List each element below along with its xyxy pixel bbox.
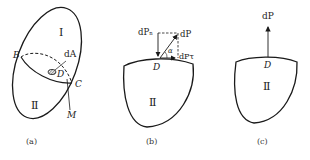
point-D-label: D [56, 69, 64, 79]
caption-a: (a) [26, 137, 37, 146]
body-outline [0, 0, 95, 128]
section-front-edge [21, 57, 72, 83]
region-II-label: Ⅱ [263, 80, 270, 93]
plane-M-label: M [66, 110, 77, 120]
caption-b: (b) [146, 137, 157, 146]
dP-label: dP [262, 11, 274, 21]
caption-c: (c) [257, 137, 268, 146]
point-D-label: D [152, 62, 160, 72]
point-D-label: D [263, 60, 271, 70]
point-B-label: B [12, 50, 20, 60]
dPn-label: dPₙ [138, 27, 153, 37]
dA-label: dA [64, 49, 77, 59]
region-I-label: Ⅰ [59, 26, 63, 39]
alpha-arc [165, 52, 167, 58]
dP-label: dP [180, 29, 191, 39]
region-II-label: Ⅱ [149, 96, 156, 109]
figure-b: dPₙ dP dPτ α D Ⅱ (b) [124, 27, 195, 146]
point-C-label: C [75, 79, 82, 89]
figure-a: Ⅰ Ⅱ B C D M dA (a) [0, 0, 95, 146]
figure-c: dP D Ⅱ (c) [235, 11, 297, 146]
alpha-label: α [168, 47, 173, 55]
dPt-label: dPτ [179, 52, 195, 61]
region-II-label: Ⅱ [31, 99, 38, 112]
diagram-canvas: Ⅰ Ⅱ B C D M dA (a) dPₙ dP dPτ α D Ⅱ (b) … [0, 0, 310, 160]
area-element-dA [48, 69, 56, 74]
